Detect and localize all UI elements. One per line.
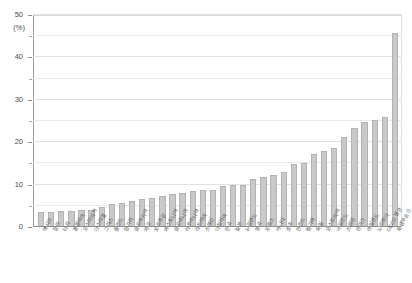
x-label-slot: 스페인 (198, 228, 208, 283)
y-tick-10 (28, 185, 32, 186)
bar-slot (390, 15, 400, 226)
x-label-slot: 오스트리아 (319, 228, 329, 283)
bar-slot (178, 15, 188, 226)
bar-slot (370, 15, 380, 226)
bar-slot (107, 15, 117, 226)
bar-slot (269, 15, 279, 226)
bar-slot (36, 15, 46, 226)
bar (351, 128, 357, 226)
x-label-slot: 네덜란드 (329, 228, 339, 283)
y-tick-label-0: 0 (19, 223, 23, 231)
x-label-slot: 뉴질랜드 (238, 228, 248, 283)
bar-series (34, 15, 402, 226)
bar (240, 185, 246, 226)
x-axis-labels: 멕시코칠레터키콜롬비아코스타리카이스라엘그리스폴란드헝가리슬로바키아체코포르투갈… (34, 228, 402, 283)
x-label-slot: 일본 (228, 228, 238, 283)
y-tick-label-20: 20 (15, 138, 23, 146)
bar-slot (188, 15, 198, 226)
bar-slot (218, 15, 228, 226)
x-label-slot: 룩셈부르크 (390, 228, 400, 283)
bar-slot (147, 15, 157, 226)
bar-slot (380, 15, 390, 226)
x-label-slot: 슬로바키아 (127, 228, 137, 283)
bar-slot (289, 15, 299, 226)
bar-slot (279, 15, 289, 226)
x-label-slot: 프랑스 (258, 228, 268, 283)
bar (361, 122, 367, 226)
bar-slot (248, 15, 258, 226)
y-axis-unit-label: (%) (13, 24, 25, 32)
bar-slot (137, 15, 147, 226)
x-label-slot: 캐나다 (269, 228, 279, 283)
x-label-slot: 라트비아 (188, 228, 198, 283)
bar (392, 33, 398, 226)
x-label-slot: 헝가리 (117, 228, 127, 283)
x-label-slot: 리투아니아 (178, 228, 188, 283)
bar-slot (319, 15, 329, 226)
bar (230, 185, 236, 226)
bar-slot (309, 15, 319, 226)
x-label-slot: 에스토니아 (157, 228, 167, 283)
bar-slot (360, 15, 370, 226)
x-label-slot: 독일 (309, 228, 319, 283)
bar (260, 177, 266, 226)
bar-slot (198, 15, 208, 226)
y-tick-50 (28, 15, 32, 16)
x-label-slot: 터키 (56, 228, 66, 283)
bar-slot (76, 15, 86, 226)
x-label-slot: 멕시코 (36, 228, 46, 283)
bar (321, 151, 327, 226)
bar-slot (157, 15, 167, 226)
bar (291, 164, 297, 226)
bar-slot (167, 15, 177, 226)
bar-slot (349, 15, 359, 226)
x-label-slot: 슬로베니아 (167, 228, 177, 283)
bar-slot (208, 15, 218, 226)
y-tick-label-10: 10 (15, 181, 23, 189)
x-label-slot: 영국 (248, 228, 258, 283)
bar-slot (46, 15, 56, 226)
bar-slot (117, 15, 127, 226)
y-tick-20 (28, 142, 32, 143)
bar-slot (299, 15, 309, 226)
x-label-slot: 아일랜드 (360, 228, 370, 283)
x-label-slot: 벨기에 (299, 228, 309, 283)
x-label-slot: 칠레 (46, 228, 56, 283)
x-label-slot: 한국 (218, 228, 228, 283)
y-tick-30 (28, 100, 32, 101)
x-label-slot: 체코 (137, 228, 147, 283)
x-label-slot: 콜롬비아 (66, 228, 76, 283)
bar-slot (238, 15, 248, 226)
x-label-slot: 코스타리카 (76, 228, 86, 283)
x-label-slot: 스웨덴 (339, 228, 349, 283)
y-tick-minor-25 (29, 121, 32, 122)
bar (382, 117, 388, 226)
bar-slot (97, 15, 107, 226)
y-tick-minor-15 (29, 163, 32, 164)
bar-slot (56, 15, 66, 226)
x-label-slot: 이스라엘 (87, 228, 97, 283)
x-label-slot: 폴란드 (107, 228, 117, 283)
x-label-slot: 그리스 (97, 228, 107, 283)
bar-slot (329, 15, 339, 226)
x-label-slot: 포르투갈 (147, 228, 157, 283)
y-tick-40 (28, 57, 32, 58)
bar-slot (66, 15, 76, 226)
y-tick-label-50: 50 (15, 11, 23, 19)
y-tick-label-30: 30 (15, 96, 23, 104)
bar-slot (228, 15, 238, 226)
x-label-slot: 호주 (279, 228, 289, 283)
x-label-slot: 핀란드 (289, 228, 299, 283)
y-tick-label-40: 40 (15, 54, 23, 62)
x-label-slot: 노르웨이 (370, 228, 380, 283)
x-label-slot: 덴마크 (349, 228, 359, 283)
bar (311, 154, 317, 227)
y-tick-minor-5 (29, 206, 32, 207)
plot-area (33, 15, 402, 227)
x-label-slot: 이탈리아 (208, 228, 218, 283)
bar-slot (339, 15, 349, 226)
bar (372, 120, 378, 226)
bar-slot (87, 15, 97, 226)
bar-slot (258, 15, 268, 226)
